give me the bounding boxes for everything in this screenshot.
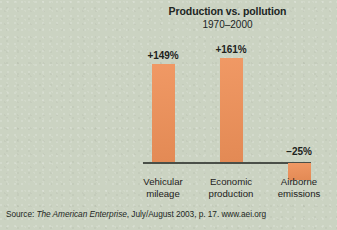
bar-category-label-economic-production: Economic production [198,176,264,199]
bar-category-line1: Economic [198,176,264,188]
bar-economic-production[interactable] [220,58,243,163]
bar-category-line1: Airborne [268,176,330,188]
bar-category-line2: production [198,188,264,200]
bar-category-label-airborne-emissions: Airborne emissions [268,176,330,199]
source-prefix: Source: [6,209,37,219]
bar-value-label-economic-production: +161% [200,44,262,55]
bar-value-label-vehicular-mileage: +149% [132,50,194,61]
plot-area: +149% Vehicular mileage +161% Economic p… [0,0,337,230]
bar-category-line1: Vehicular [132,176,194,188]
bar-value-label-airborne-emissions: −25% [268,146,330,157]
bar-category-label-vehicular-mileage: Vehicular mileage [132,176,194,199]
bar-category-line2: emissions [268,188,330,200]
bar-category-line2: mileage [132,188,194,200]
source-suffix: , July/August 2003, p. 17. www.aei.org [127,209,266,219]
source-publication: The American Enterprise [37,209,127,219]
bar-vehicular-mileage[interactable] [152,64,175,163]
chart-figure: Production vs. pollution 1970–2000 +149%… [0,0,337,230]
zero-baseline-axis [143,162,311,164]
source-citation: Source: The American Enterprise, July/Au… [6,209,266,219]
